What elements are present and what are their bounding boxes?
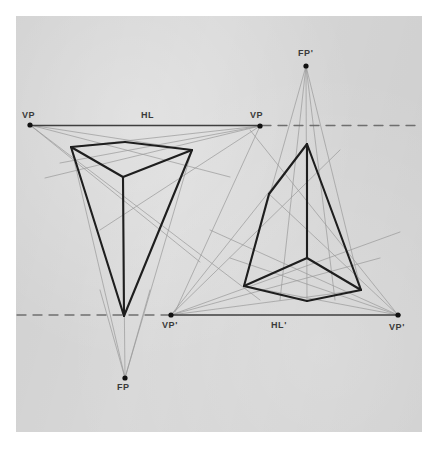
upper-prism-edge-6 <box>124 150 192 316</box>
label-fp: FP <box>117 382 130 392</box>
vp-left-point <box>27 122 32 127</box>
construction-ray-20 <box>171 150 340 315</box>
label-fp-prime: FP' <box>298 48 313 58</box>
construction-ray-22 <box>171 258 380 315</box>
construction-ray-9 <box>71 147 125 378</box>
vp-prime-left-point <box>168 312 173 317</box>
label-vp-prime-left: VP' <box>162 320 178 330</box>
fp-prime-point <box>303 63 308 68</box>
lower-prism-edge-2 <box>307 144 361 290</box>
perspective-diagram <box>0 0 438 454</box>
label-vp-left: VP <box>22 110 35 120</box>
horizon-lines-layer <box>17 126 422 316</box>
lower-prism-edge-0 <box>269 144 307 194</box>
screenshot-root: VPHLVPFP'VP'HL'VP'FP <box>0 0 438 454</box>
lower-prism-edge-3 <box>244 286 307 301</box>
solid-edges-layer <box>71 142 361 316</box>
label-vp-prime-right: VP' <box>389 322 405 332</box>
vp-right-point <box>257 123 262 128</box>
construction-ray-13 <box>100 290 125 378</box>
fp-point <box>122 375 127 380</box>
construction-lines-layer <box>30 66 400 378</box>
label-vp-right: VP <box>250 110 263 120</box>
label-hl: HL <box>141 110 154 120</box>
construction-ray-23 <box>171 232 400 315</box>
upper-prism-edge-4 <box>123 177 124 316</box>
label-hl-prime: HL' <box>271 320 287 330</box>
lower-prism-edge-7 <box>307 258 361 290</box>
construction-ray-3 <box>30 125 260 300</box>
construction-ray-26 <box>230 258 398 315</box>
construction-ray-25 <box>244 286 398 315</box>
vp-prime-right-point <box>395 312 400 317</box>
lower-prism-edge-6 <box>244 258 307 286</box>
